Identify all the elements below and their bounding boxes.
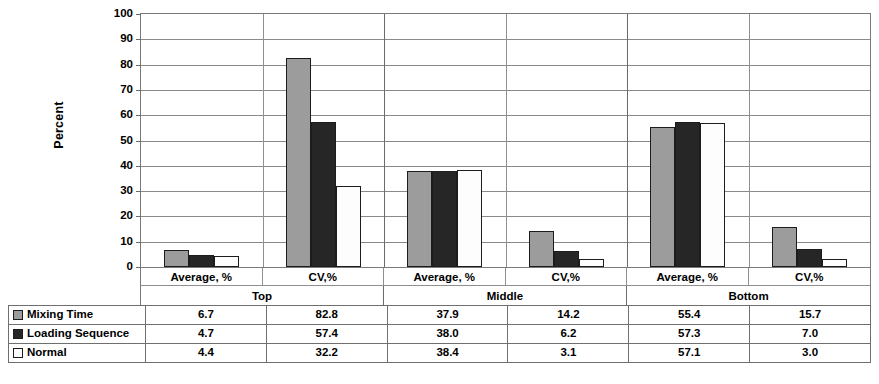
- bar: [407, 171, 432, 267]
- legend-label: Mixing Time: [27, 309, 93, 321]
- legend-swatch-icon: [13, 329, 23, 339]
- bar: [311, 122, 336, 267]
- table-cell: 38.4: [387, 344, 508, 363]
- legend-swatch-icon: [13, 348, 23, 358]
- table-cell: 57.4: [266, 325, 387, 344]
- y-axis-tick-label: 40: [120, 160, 133, 172]
- bar: [286, 58, 311, 267]
- bar: [822, 259, 847, 267]
- legend-entry: Normal: [9, 344, 146, 363]
- y-axis-tick-label: 90: [120, 34, 133, 46]
- bar: [189, 255, 214, 267]
- x-axis-category-label: Average, %: [384, 268, 506, 285]
- table-cell: 57.1: [629, 344, 750, 363]
- bar: [214, 256, 239, 267]
- table-cell: 38.0: [387, 325, 508, 344]
- y-axis-tick-label: 50: [120, 135, 133, 147]
- bar: [432, 171, 457, 267]
- table-row: Loading Sequence4.757.438.06.257.37.0: [9, 325, 871, 344]
- bar-group: [627, 14, 749, 267]
- table-cell: 4.7: [146, 325, 267, 344]
- table-cell: 14.2: [508, 306, 629, 325]
- y-axis-tick-label: 100: [114, 8, 133, 20]
- bar: [164, 250, 189, 267]
- legend-swatch-icon: [13, 310, 23, 320]
- table-cell: 37.9: [387, 306, 508, 325]
- table-cell: 15.7: [750, 306, 871, 325]
- x-axis-group-label: Top: [141, 286, 384, 305]
- table-cell: 6.7: [146, 306, 267, 325]
- y-axis-tick-label: 60: [120, 109, 133, 121]
- bar: [579, 259, 604, 267]
- table-cell: 7.0: [750, 325, 871, 344]
- data-table: Mixing Time6.782.837.914.255.415.7Loadin…: [8, 305, 871, 363]
- bar: [772, 227, 797, 267]
- bar: [675, 122, 700, 267]
- table-row: Normal4.432.238.43.157.13.0: [9, 344, 871, 363]
- bar-group: [506, 14, 628, 267]
- chart-figure: Percent 0102030405060708090100 Average, …: [0, 0, 879, 384]
- plot-area: 0102030405060708090100: [140, 13, 871, 268]
- bar: [529, 231, 554, 267]
- bar: [336, 186, 361, 267]
- x-axis-group-labels: TopMiddleBottom: [140, 286, 871, 305]
- bar: [650, 127, 675, 267]
- x-axis-category-labels: Average, %CV,%Average, %CV,%Average, %CV…: [140, 268, 871, 286]
- x-axis-category-label: Average, %: [627, 268, 749, 285]
- legend-label: Normal: [27, 347, 67, 359]
- table-row: Mixing Time6.782.837.914.255.415.7: [9, 306, 871, 325]
- bar: [700, 123, 725, 267]
- table-cell: 32.2: [266, 344, 387, 363]
- bar: [554, 251, 579, 267]
- table-cell: 55.4: [629, 306, 750, 325]
- x-axis-category-label: Average, %: [141, 268, 263, 285]
- x-axis-category-label: CV,%: [506, 268, 628, 285]
- table-cell: 57.3: [629, 325, 750, 344]
- bar-group: [263, 14, 385, 267]
- table-cell: 3.0: [750, 344, 871, 363]
- x-axis-category-label: CV,%: [263, 268, 385, 285]
- y-axis-tick-label: 20: [120, 211, 133, 223]
- table-cell: 4.4: [146, 344, 267, 363]
- bar-group: [749, 14, 871, 267]
- bar: [457, 170, 482, 267]
- table-cell: 82.8: [266, 306, 387, 325]
- x-axis-group-label: Middle: [384, 286, 627, 305]
- legend-entry: Mixing Time: [9, 306, 146, 325]
- y-axis-tick-label: 10: [120, 236, 133, 248]
- x-axis-group-label: Bottom: [627, 286, 870, 305]
- y-axis-tick-label: 30: [120, 185, 133, 197]
- y-axis-tick-label: 0: [127, 261, 133, 273]
- table-cell: 3.1: [508, 344, 629, 363]
- y-axis-title: Percent: [52, 80, 66, 170]
- legend-entry: Loading Sequence: [9, 325, 146, 344]
- bar-group: [141, 14, 263, 267]
- x-axis-category-label: CV,%: [749, 268, 871, 285]
- table-cell: 6.2: [508, 325, 629, 344]
- bar: [797, 249, 822, 267]
- y-axis-tick-label: 70: [120, 84, 133, 96]
- legend-label: Loading Sequence: [27, 328, 129, 340]
- y-axis-tick-label: 80: [120, 59, 133, 71]
- bar-group: [384, 14, 506, 267]
